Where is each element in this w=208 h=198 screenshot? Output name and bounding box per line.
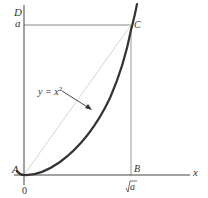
x-tick-label-sqrt-a: a [130, 182, 135, 192]
y-tick-label-a: a [15, 18, 21, 29]
curve-equation-exponent: 2 [59, 85, 63, 93]
label-arrow-head [85, 104, 92, 110]
x-axis-label: x [193, 167, 198, 178]
diagram-canvas [0, 0, 208, 198]
point-label-c: C [134, 20, 141, 30]
point-label-b: B [134, 164, 140, 174]
chord-line [24, 25, 131, 175]
curve-equation-label: y = x2 [38, 86, 62, 97]
parabola-curve [17, 4, 137, 175]
point-label-a: A [12, 164, 19, 175]
x-tick-label-origin: 0 [22, 186, 27, 196]
label-arrow-line [62, 91, 89, 108]
curve-equation-base: y = x [38, 86, 59, 97]
